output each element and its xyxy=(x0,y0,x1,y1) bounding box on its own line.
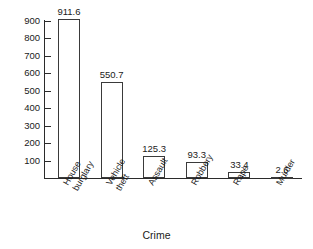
y-axis-tick-label: 900 xyxy=(14,16,40,26)
y-axis-tick-label: 800 xyxy=(14,33,40,43)
y-axis-tick-label: 300 xyxy=(14,121,40,131)
y-axis-tick xyxy=(45,108,51,109)
y-axis-tick xyxy=(45,56,51,57)
y-axis-tick xyxy=(45,91,51,92)
y-axis-tick xyxy=(45,73,51,74)
bar-value-label: 125.3 xyxy=(132,144,176,154)
y-axis-tick-label: 600 xyxy=(14,68,40,78)
bar-chart: 900800700600500400300200100 911.6550.712… xyxy=(0,0,313,249)
y-axis-tick xyxy=(45,126,51,127)
y-axis-tick xyxy=(45,143,51,144)
y-axis-line xyxy=(44,20,45,179)
y-axis-tick-label: 400 xyxy=(14,103,40,113)
y-axis-tick-label: 700 xyxy=(14,51,40,61)
plot-area: 900800700600500400300200100 911.6550.712… xyxy=(0,0,313,249)
bar-value-label: 550.7 xyxy=(90,70,134,80)
bar-value-label: 911.6 xyxy=(47,7,91,17)
y-axis-tick-label: 200 xyxy=(14,138,40,148)
y-axis-tick xyxy=(45,38,51,39)
x-axis-title: Crime xyxy=(0,229,313,241)
y-axis-tick xyxy=(45,161,51,162)
y-axis-tick-label: 500 xyxy=(14,86,40,96)
y-axis-tick-label: 100 xyxy=(14,156,40,166)
y-axis-tick xyxy=(45,21,51,22)
